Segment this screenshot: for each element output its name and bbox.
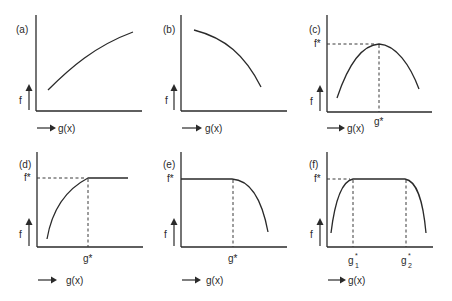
panel-label: (d) [19, 159, 31, 170]
g1-star-label: g * 1 [348, 252, 359, 269]
curve [331, 179, 426, 233]
figure-canvas: (a) f g(x) (b) f g(x) [0, 0, 452, 301]
svg-text:g: g [401, 255, 407, 266]
y-direction-arrow-icon [171, 84, 178, 110]
panel-d: (d) f* g* f g(x) [19, 152, 143, 286]
f-star-label: f* [167, 173, 174, 184]
panel-label: (e) [163, 159, 175, 170]
g-star-label: g* [228, 253, 238, 264]
panel-b: (b) f g(x) [163, 15, 287, 134]
x-direction-arrow-icon [327, 125, 345, 132]
curve [181, 179, 268, 232]
y-axis-label: f [310, 229, 313, 240]
panel-label: (a) [16, 24, 28, 35]
f-star-label: f* [24, 172, 31, 183]
x-direction-arrow-icon [182, 125, 202, 132]
x-axis-label: g(x) [205, 123, 222, 134]
x-direction-arrow-icon [38, 277, 57, 284]
f-star-label: f* [314, 38, 321, 49]
y-direction-arrow-icon [26, 84, 33, 110]
svg-text:*: * [408, 252, 411, 259]
g2-star-label: g * 2 [401, 252, 412, 269]
y-direction-arrow-icon [317, 85, 324, 111]
panel-label: (f) [309, 159, 318, 170]
svg-text:g: g [348, 255, 354, 266]
x-axis-label: g(x) [206, 275, 223, 286]
y-axis-label: f [165, 95, 168, 106]
panel-e: (e) f* g* f g(x) [163, 152, 287, 286]
x-axis-label: g(x) [58, 123, 75, 134]
x-axis-label: g(x) [347, 123, 364, 134]
x-direction-arrow-icon [37, 125, 56, 132]
y-direction-arrow-icon [26, 218, 33, 246]
y-direction-arrow-icon [171, 218, 178, 246]
panel-f: (f) f* g * 1 g * 2 f g(x) [309, 152, 433, 286]
svg-text:1: 1 [355, 262, 359, 269]
x-direction-arrow-icon [328, 277, 346, 284]
panel-a: (a) f g(x) [16, 15, 142, 134]
curve [194, 30, 261, 87]
x-direction-arrow-icon [182, 277, 201, 284]
svg-text:*: * [355, 252, 358, 259]
curve [337, 44, 419, 98]
curve [48, 32, 133, 90]
y-axis-label: f [310, 96, 313, 107]
panel-c: (c) f* g* f g(x) [309, 15, 432, 134]
figure: (a) f g(x) (b) f g(x) [0, 0, 452, 301]
x-axis-label: g(x) [66, 275, 83, 286]
y-axis-label: f [164, 229, 167, 240]
y-axis-label: f [19, 95, 22, 106]
svg-text:2: 2 [408, 262, 412, 269]
panel-label: (c) [309, 24, 321, 35]
y-direction-arrow-icon [317, 218, 324, 246]
x-axis-label: g(x) [348, 275, 365, 286]
y-axis-label: f [19, 229, 22, 240]
g-star-label: g* [83, 253, 93, 264]
g-star-label: g* [374, 116, 384, 127]
panel-label: (b) [163, 24, 175, 35]
f-star-label: f* [314, 173, 321, 184]
